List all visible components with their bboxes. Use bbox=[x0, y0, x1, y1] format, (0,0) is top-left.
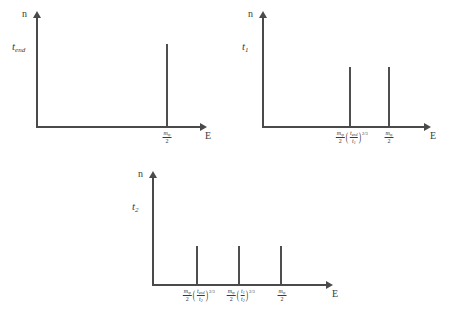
time-label-t-1: t1 bbox=[242, 40, 249, 52]
spectrum-spike bbox=[280, 246, 282, 284]
inner-denominator: t2 bbox=[199, 296, 204, 302]
time-label-t-end: tend bbox=[12, 40, 25, 52]
x-axis-label: E bbox=[332, 288, 338, 299]
x-tick-label: mφ 2 ( tend t2 ) 2/3 bbox=[183, 288, 215, 302]
exponent: 2/3 bbox=[249, 290, 255, 295]
panel-t-2: n E t2 mφ 2 ( tend t2 ) 2/3 bbox=[110, 160, 353, 320]
y-axis bbox=[262, 17, 264, 126]
x-tick-label: mφ 2 bbox=[278, 288, 287, 302]
fraction-denominator: 2 bbox=[279, 296, 284, 302]
y-axis-label: n bbox=[22, 8, 27, 19]
time-label-subscript: end bbox=[15, 46, 25, 54]
phi-subscript: φ bbox=[283, 290, 286, 295]
y-axis-label: n bbox=[248, 8, 253, 19]
time-label-subscript: 2 bbox=[135, 206, 139, 214]
fraction-numerator: mφ bbox=[278, 288, 287, 296]
fraction-m-phi-over-2: mφ 2 bbox=[183, 288, 192, 302]
spectrum-spike bbox=[196, 246, 198, 284]
time-subscript: 2 bbox=[201, 298, 203, 303]
panel-t-end: n E tend mφ 2 bbox=[0, 0, 230, 160]
fraction-numerator: mφ bbox=[227, 288, 236, 296]
y-axis bbox=[152, 177, 154, 284]
parenthesized-ratio: ( tend t2 ) 2/3 bbox=[192, 288, 215, 302]
x-axis-label: E bbox=[430, 130, 436, 141]
phi-subscript: φ bbox=[188, 290, 191, 295]
fraction-t-1-over-t-2: t1 t2 bbox=[241, 288, 246, 302]
exponent: 2/3 bbox=[209, 290, 215, 295]
time-label-subscript: 1 bbox=[245, 46, 249, 54]
left-paren: ( bbox=[237, 290, 239, 300]
x-tick-label: mφ 2 bbox=[163, 130, 172, 144]
x-tick-label: mφ 2 bbox=[385, 130, 394, 144]
fraction-m-phi-over-2: mφ 2 bbox=[278, 288, 287, 302]
spectrum-spike bbox=[349, 67, 351, 126]
fraction-numerator: mφ bbox=[183, 288, 192, 296]
phi-subscript: φ bbox=[168, 132, 171, 137]
fraction-t-end-over-t-2: tend t2 bbox=[197, 288, 205, 302]
fraction-denominator: 2 bbox=[386, 138, 391, 144]
x-axis bbox=[262, 126, 425, 128]
left-paren: ( bbox=[193, 290, 195, 300]
time-subscript: end bbox=[199, 290, 205, 295]
spectrum-spike bbox=[238, 246, 240, 284]
inner-numerator: tend bbox=[350, 130, 358, 137]
fraction-numerator: mφ bbox=[163, 130, 172, 138]
fraction-m-phi-over-2: mφ 2 bbox=[163, 130, 172, 144]
fraction-denominator: 2 bbox=[164, 138, 169, 144]
fraction-m-phi-over-2: mφ 2 bbox=[385, 130, 394, 144]
inner-denominator: t2 bbox=[241, 296, 246, 302]
time-label-t-2: t2 bbox=[132, 200, 139, 212]
fraction-denominator: 2 bbox=[229, 296, 234, 302]
panel-t-1: n E t1 mφ 2 ( tend t1 ) 2/3 bbox=[230, 0, 453, 160]
y-axis-arrowhead bbox=[149, 171, 157, 178]
spectrum-spike bbox=[388, 67, 390, 126]
inner-numerator: t1 bbox=[241, 288, 246, 295]
fraction-t-end-over-t-1: tend t1 bbox=[350, 130, 358, 144]
phi-subscript: φ bbox=[390, 132, 393, 137]
fraction-numerator: mφ bbox=[385, 130, 394, 138]
y-axis-label: n bbox=[138, 168, 143, 179]
y-axis-arrowhead bbox=[33, 11, 41, 18]
phi-subscript: φ bbox=[341, 132, 344, 137]
parenthesized-ratio: ( t1 t2 ) 2/3 bbox=[236, 288, 255, 302]
x-axis-label: E bbox=[205, 130, 211, 141]
fraction-denominator: 2 bbox=[185, 296, 190, 302]
time-subscript: end bbox=[352, 132, 358, 137]
x-tick-label: mφ 2 ( tend t1 ) 2/3 bbox=[336, 130, 368, 144]
time-subscript: 1 bbox=[354, 140, 356, 145]
fraction-m-phi-over-2: mφ 2 bbox=[227, 288, 236, 302]
y-axis bbox=[36, 17, 38, 126]
left-paren: ( bbox=[346, 132, 348, 142]
exponent: 2/3 bbox=[362, 132, 368, 137]
inner-numerator: tend bbox=[197, 288, 205, 295]
phi-subscript: φ bbox=[232, 290, 235, 295]
inner-denominator: t1 bbox=[352, 138, 357, 144]
x-axis bbox=[36, 126, 201, 128]
time-subscript: 1 bbox=[243, 290, 245, 295]
x-axis bbox=[152, 284, 327, 286]
spectrum-spike bbox=[166, 44, 168, 126]
fraction-m-phi-over-2: mφ 2 bbox=[336, 130, 345, 144]
x-tick-label: mφ 2 ( t1 t2 ) 2/3 bbox=[227, 288, 256, 302]
y-axis-arrowhead bbox=[259, 11, 267, 18]
fraction-denominator: 2 bbox=[338, 138, 343, 144]
fraction-numerator: mφ bbox=[336, 130, 345, 138]
parenthesized-ratio: ( tend t1 ) 2/3 bbox=[345, 130, 368, 144]
time-subscript: 2 bbox=[243, 298, 245, 303]
figure-three-energy-spectra: n E tend mφ 2 n E t1 bbox=[0, 0, 453, 320]
